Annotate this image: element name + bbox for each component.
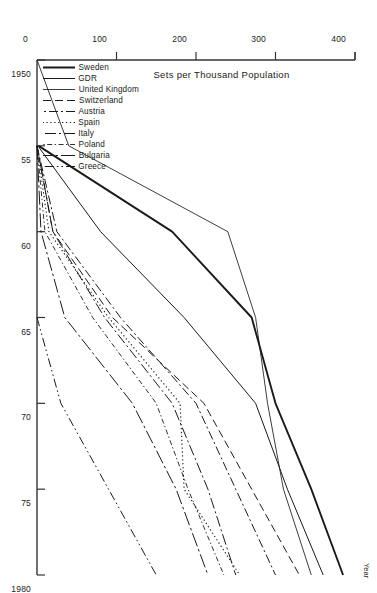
y-axis-ticks: [117, 52, 356, 60]
legend-item-greece: Greece: [42, 161, 107, 172]
rotated-figure-wrapper: 195055606570751980 0100200300400 Sets pe…: [0, 0, 377, 593]
series-line-austria: [37, 146, 276, 575]
y-tick-label: 100: [93, 34, 108, 44]
legend-label: United Kingdom: [79, 85, 139, 94]
x-tick-label: 65: [21, 327, 31, 337]
legend-line-swatch: [42, 73, 76, 84]
x-tick-label: 75: [21, 498, 31, 508]
series-line-poland: [37, 146, 224, 575]
legend-item-bulgaria: Bulgaria: [42, 150, 110, 161]
legend-line-swatch: [42, 161, 76, 172]
legend-line-swatch: [42, 128, 76, 139]
x-axis-title: Year: [362, 563, 371, 578]
legend-line-swatch: [42, 84, 76, 95]
legend-item-austria: Austria: [42, 106, 106, 117]
legend-label: Poland: [79, 140, 105, 149]
legend-item-spain: Spain: [42, 117, 101, 128]
legend-label: Switzerland: [79, 96, 123, 105]
legend-line-swatch: [42, 106, 76, 117]
y-axis-title: Sets per Thousand Population: [153, 69, 289, 80]
x-tick-label: 1950: [11, 69, 31, 79]
legend-line-swatch: [42, 139, 76, 150]
legend-item-italy: Italy: [42, 128, 95, 139]
x-tick-label: 70: [21, 412, 31, 422]
chart-legend: SwedenGDRUnited KingdomSwitzerlandAustri…: [42, 62, 139, 172]
legend-line-swatch: [42, 117, 76, 128]
legend-label: Greece: [79, 162, 107, 171]
y-tick-label: 300: [252, 34, 267, 44]
x-tick-label: 55: [21, 155, 31, 165]
legend-label: Italy: [79, 129, 95, 138]
series-line-bulgaria: [37, 146, 208, 575]
legend-item-gdr: GDR: [42, 73, 98, 84]
series-line-italy: [37, 146, 236, 575]
legend-line-swatch: [42, 95, 76, 106]
series-line-switzerland: [37, 146, 299, 575]
y-tick-label: 200: [172, 34, 187, 44]
legend-line-swatch: [42, 150, 76, 161]
legend-item-united-kingdom: United Kingdom: [42, 84, 139, 95]
x-tick-label: 60: [21, 241, 31, 251]
y-tick-label: 400: [331, 34, 346, 44]
legend-line-swatch: [42, 62, 76, 73]
legend-item-sweden: Sweden: [42, 62, 110, 73]
series-line-greece: [37, 318, 156, 576]
y-tick-label: 0: [23, 34, 28, 44]
legend-item-poland: Poland: [42, 139, 105, 150]
series-line-sweden: [39, 146, 343, 575]
x-tick-label: 1980: [11, 584, 31, 593]
legend-label: Austria: [79, 107, 106, 116]
legend-item-switzerland: Switzerland: [42, 95, 123, 106]
legend-label: Sweden: [79, 63, 110, 72]
legend-label: GDR: [79, 74, 98, 83]
legend-label: Bulgaria: [79, 151, 110, 160]
legend-label: Spain: [79, 118, 101, 127]
series-line-gdr: [38, 146, 323, 575]
line-chart-figure: 195055606570751980 0100200300400 Sets pe…: [0, 0, 377, 593]
